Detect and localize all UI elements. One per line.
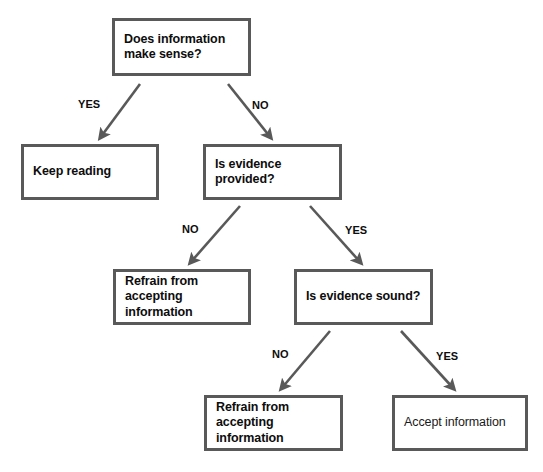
node-does-information-make-sense: Does information make sense?	[112, 18, 251, 76]
node-label-accept-information: Accept information	[395, 415, 515, 430]
node-refrain-from-accepting-information-2: Refrain from accepting information	[204, 395, 343, 451]
node-label-keep-reading: Keep reading	[24, 164, 120, 179]
arrow-sense-no-evidence-provided	[228, 84, 271, 138]
edge-label-sound-yes-accept: YES	[436, 350, 458, 362]
node-accept-information: Accept information	[392, 395, 528, 451]
edge-label-sense-no-evidence-provided: NO	[252, 99, 269, 111]
edge-label-provided-yes-evidence-sound: YES	[345, 224, 367, 236]
node-label-refrain-from-accepting-information-2: Refrain from accepting information	[207, 400, 340, 446]
arrow-sense-yes-keep-reading	[100, 84, 140, 138]
arrow-sound-no-refrain	[281, 331, 330, 389]
edge-label-provided-no-refrain: NO	[182, 223, 199, 235]
node-is-evidence-provided: Is evidence provided?	[203, 144, 342, 200]
node-label-is-evidence-provided: Is evidence provided?	[206, 157, 339, 188]
node-label-does-information-make-sense: Does information make sense?	[115, 32, 234, 63]
node-label-is-evidence-sound: Is evidence sound?	[297, 289, 429, 304]
edge-label-sense-yes-keep-reading: YES	[78, 98, 100, 110]
node-label-refrain-from-accepting-information-1: Refrain from accepting information	[116, 274, 248, 320]
node-refrain-from-accepting-information-1: Refrain from accepting information	[113, 269, 251, 325]
edge-label-sound-no-refrain: NO	[272, 348, 289, 360]
flowchart-canvas: Does information make sense?Keep reading…	[0, 0, 543, 472]
node-keep-reading: Keep reading	[21, 144, 159, 200]
node-is-evidence-sound: Is evidence sound?	[294, 269, 433, 325]
